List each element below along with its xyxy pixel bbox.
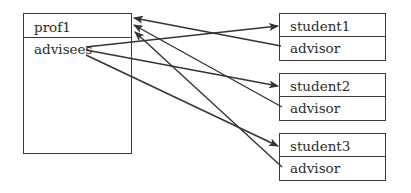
student3-box: student3 advisor: [279, 133, 386, 181]
diagram-canvas: prof1 advisees student1 advisor student2…: [0, 0, 411, 193]
arrow-student3-advisor-to-prof1: [135, 32, 282, 167]
student2-box: student2 advisor: [279, 73, 386, 121]
student3-advisor-label: advisor: [280, 162, 385, 176]
prof1-advisees-label: advisees: [24, 43, 131, 57]
student1-divider: [280, 36, 385, 37]
student3-name-label: student3: [280, 140, 385, 154]
student1-box: student1 advisor: [279, 13, 386, 61]
student3-divider: [280, 156, 385, 157]
student1-advisor-label: advisor: [280, 42, 385, 56]
student2-divider: [280, 96, 385, 97]
prof1-name-label: prof1: [24, 21, 131, 35]
arrow-student1-advisor-to-prof1: [134, 18, 281, 46]
prof1-divider: [24, 37, 131, 38]
student2-name-label: student2: [280, 80, 385, 94]
student1-name-label: student1: [280, 20, 385, 34]
prof1-box: prof1 advisees: [23, 13, 132, 154]
arrow-student2-advisor-to-prof1: [134, 25, 282, 107]
student2-advisor-label: advisor: [280, 102, 385, 116]
